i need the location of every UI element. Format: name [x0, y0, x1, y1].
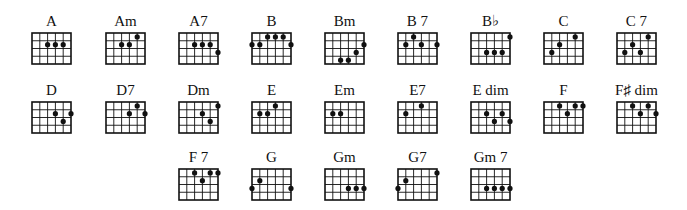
finger-dot	[192, 170, 197, 175]
finger-dot	[484, 111, 489, 116]
chord-name: F	[541, 82, 586, 98]
chord-diagram: B♭	[468, 13, 528, 73]
finger-dot	[215, 50, 220, 55]
finger-dot	[265, 111, 270, 116]
chord-diagram: A7	[176, 13, 236, 73]
fretboard-grid	[468, 100, 513, 135]
finger-dot	[208, 119, 213, 124]
finger-dot	[53, 111, 58, 116]
fretboard-grid	[322, 31, 367, 66]
finger-dot	[257, 178, 262, 183]
chord-name: Em	[322, 82, 367, 98]
finger-dot	[288, 42, 293, 47]
chord-diagram: D	[29, 82, 89, 142]
finger-dot	[411, 34, 416, 39]
chord-name: B 7	[395, 13, 440, 29]
finger-dot	[403, 42, 408, 47]
chord-diagram: G7	[395, 149, 455, 209]
finger-dot	[257, 42, 262, 47]
chord-diagram: Am	[103, 13, 163, 73]
finger-dot	[638, 111, 643, 116]
finger-dot	[53, 42, 58, 47]
chord-diagram: Bm	[322, 13, 382, 73]
chord-name: B♭	[468, 13, 513, 29]
fretboard-grid	[322, 100, 367, 135]
finger-dot	[135, 103, 140, 108]
finger-dot	[646, 103, 651, 108]
finger-dot	[403, 111, 408, 116]
fretboard-grid	[468, 167, 513, 202]
finger-dot	[338, 58, 343, 63]
finger-dot	[192, 42, 197, 47]
chord-name: E	[249, 82, 294, 98]
finger-dot	[565, 111, 570, 116]
finger-dot	[215, 103, 220, 108]
finger-dot	[557, 42, 562, 47]
finger-dot	[500, 111, 505, 116]
finger-dot	[507, 186, 512, 191]
chord-diagram: C	[541, 13, 601, 73]
fretboard-grid	[468, 31, 513, 66]
finger-dot	[622, 50, 627, 55]
finger-dot	[288, 186, 293, 191]
chord-name: G7	[395, 149, 440, 165]
finger-dot	[257, 111, 262, 116]
chord-name: A	[29, 13, 74, 29]
finger-dot	[127, 111, 132, 116]
fretboard-grid	[614, 100, 659, 135]
chord-diagram: E	[249, 82, 309, 142]
chord-name: Gm 7	[468, 149, 513, 165]
chord-name: C 7	[614, 13, 659, 29]
finger-dot	[346, 58, 351, 63]
fretboard-grid	[249, 31, 294, 66]
fretboard-grid	[322, 167, 367, 202]
fretboard-grid	[541, 31, 586, 66]
chord-name: A7	[176, 13, 221, 29]
chord-name: F♯ dim	[614, 82, 659, 98]
chord-name: C	[541, 13, 586, 29]
fretboard-grid	[249, 100, 294, 135]
finger-dot	[507, 119, 512, 124]
chord-diagram: A	[29, 13, 89, 73]
finger-dot	[361, 42, 366, 47]
finger-dot	[630, 42, 635, 47]
finger-dot	[419, 42, 424, 47]
chord-diagram: G	[249, 149, 309, 209]
finger-dot	[549, 50, 554, 55]
finger-dot	[354, 186, 359, 191]
chord-name: Dm	[176, 82, 221, 98]
chord-diagram: Em	[322, 82, 382, 142]
fretboard-grid	[29, 100, 74, 135]
finger-dot	[45, 42, 50, 47]
chord-name: D7	[103, 82, 148, 98]
finger-dot	[403, 178, 408, 183]
finger-dot	[630, 103, 635, 108]
chord-diagram: B 7	[395, 13, 455, 73]
finger-dot	[61, 42, 66, 47]
fretboard-grid	[103, 100, 148, 135]
finger-dot	[361, 186, 366, 191]
finger-dot	[346, 186, 351, 191]
chord-name: G	[249, 149, 294, 165]
finger-dot	[484, 186, 489, 191]
chord-diagram: C 7	[614, 13, 674, 73]
chord-name: Gm	[322, 149, 367, 165]
fretboard-grid	[541, 100, 586, 135]
finger-dot	[127, 42, 132, 47]
chord-diagram: D7	[103, 82, 163, 142]
finger-dot	[500, 50, 505, 55]
finger-dot	[500, 186, 505, 191]
finger-dot	[215, 170, 220, 175]
chord-diagram: Gm	[322, 149, 382, 209]
finger-dot	[249, 186, 254, 191]
chord-name: D	[29, 82, 74, 98]
finger-dot	[646, 34, 651, 39]
finger-dot	[208, 42, 213, 47]
fretboard-grid	[395, 167, 440, 202]
fretboard-grid	[176, 31, 221, 66]
finger-dot	[68, 111, 73, 116]
finger-dot	[419, 103, 424, 108]
finger-dot	[354, 50, 359, 55]
chord-diagram: E7	[395, 82, 455, 142]
fretboard-grid	[395, 31, 440, 66]
